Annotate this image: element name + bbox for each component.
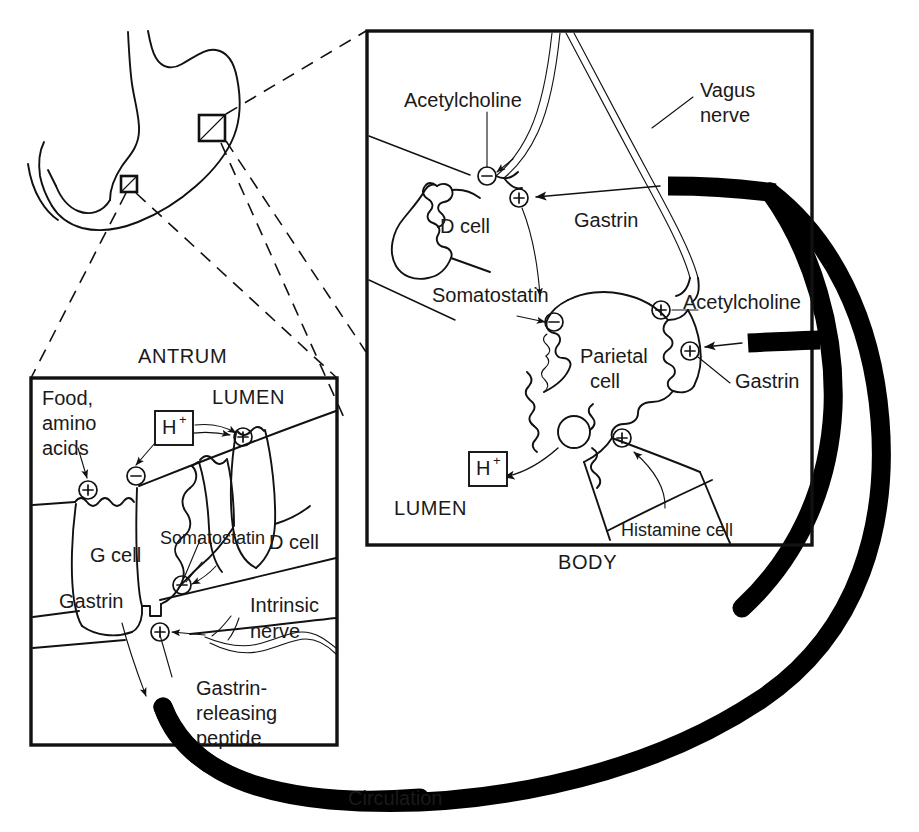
plus-acid-lumen-sign [234,428,252,446]
body-panel: H + Acetylcholine Vagus nerve D cell Gas… [367,31,820,573]
body-vagus-label-1: Vagus [700,79,755,101]
antrum-panel: H + Food, amino acids LUMEN G cell Somat… [31,378,337,749]
body-histamine-cell-label: Histamine cell [621,520,733,540]
antrum-g-cell-label: G cell [90,544,141,566]
body-vagus-label-2: nerve [700,104,750,126]
circulation-label: Circulation [348,787,442,809]
body-hplus-label: H [476,457,490,479]
antrum-d-cell-label: D cell [269,531,319,553]
plus-gastrin-d-cell-sign [510,189,528,207]
antrum-food-label-1: Food, [42,387,93,409]
minus-ach-d-cell-sign [478,167,496,185]
minus-acid-receptor-sign [127,467,145,485]
plus-grp-receptor-sign [151,623,169,641]
antrum-panel-caption: ANTRUM [138,345,227,367]
body-hplus-superscript: + [493,453,501,468]
antrum-grp-label-3: peptide [196,727,262,749]
antrum-somatostatin-label: Somatostatin [160,528,265,548]
antrum-grp-label-1: Gastrin- [196,677,267,699]
antrum-hplus-box: H + [155,411,193,445]
antrum-food-label-3: acids [42,437,89,459]
plus-food-receptor-sign [79,481,97,499]
diagram-canvas: H + Acetylcholine Vagus nerve D cell Gas… [0,0,919,832]
body-somatostatin-label: Somatostatin [432,284,549,306]
body-acetylcholine-top-label: Acetylcholine [404,89,522,111]
antrum-hplus-superscript: + [179,412,187,427]
antrum-food-label-2: amino [42,412,96,434]
gastric-acid-regulation-figure: H + Acetylcholine Vagus nerve D cell Gas… [0,0,919,832]
antrum-hplus-label: H [162,416,176,438]
antrum-lumen-label: LUMEN [212,386,285,408]
antrum-intrinsic-label-2: nerve [250,620,300,642]
plus-ach-parietal-sign [652,301,670,319]
gastrin-vessel-stub-lower [748,340,820,343]
antrum-gastrin-label: Gastrin [59,590,123,612]
body-gastrin-right-label: Gastrin [735,370,799,392]
antrum-callout-marker[interactable] [121,176,137,192]
antrum-grp-label-2: releasing [196,702,277,724]
body-d-cell-label: D cell [440,215,490,237]
gastrin-vessel-stub-upper [668,186,775,193]
antrum-intrinsic-label-1: Intrinsic [250,594,319,616]
minus-somatostatin-parietal-sign [545,313,563,331]
body-lumen-label: LUMEN [394,497,467,519]
body-parietal-label-2: cell [590,370,620,392]
plus-gastrin-parietal-sign [681,342,699,360]
body-parietal-label-1: Parietal [580,345,648,367]
vagus-nerve-branch [566,33,699,302]
body-hplus-box: H + [469,452,507,486]
body-acetylcholine-right-label: Acetylcholine [683,291,801,313]
body-gastrin-top-label: Gastrin [574,209,638,231]
body-callout-marker[interactable] [199,115,225,141]
body-panel-caption: BODY [558,551,617,573]
